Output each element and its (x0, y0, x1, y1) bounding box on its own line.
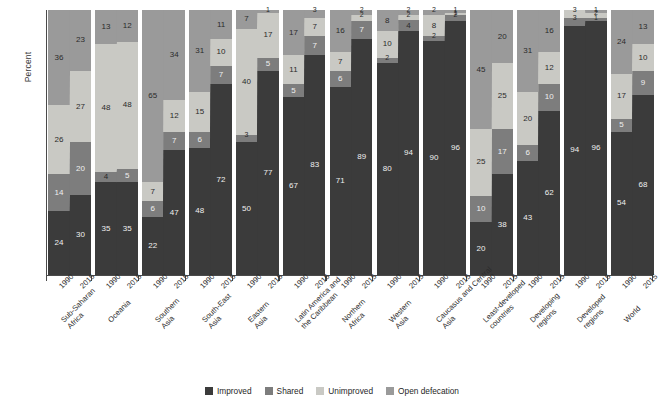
segment-value: 12 (538, 64, 559, 72)
bar-2015[interactable]: 16121062 (538, 10, 559, 275)
segment-value: 5 (611, 121, 632, 129)
bar-2015[interactable]: 20251738 (492, 10, 513, 275)
segment-unimproved: 20 (517, 92, 538, 145)
segment-unimproved: 17 (611, 74, 632, 119)
legend-item[interactable]: Open defecation (386, 386, 459, 396)
segment-value: 96 (445, 144, 466, 152)
segment-shared: 5 (611, 119, 632, 132)
segment-value: 4 (95, 173, 116, 181)
bar-group[interactable]: 4525102020251738 (470, 10, 513, 275)
segment-value: 20 (517, 115, 538, 123)
bar-2015[interactable]: 23272030 (70, 10, 91, 275)
bar-2015[interactable]: 117577 (257, 10, 278, 275)
legend-swatch (316, 387, 324, 395)
segment-value: 16 (538, 27, 559, 35)
bar-2015[interactable]: 11296 (445, 10, 466, 275)
segment-improved: 62 (538, 111, 559, 275)
segment-value: 6 (330, 75, 351, 83)
bar-1990[interactable]: 1711567 (283, 10, 304, 275)
segment-unimproved: 26 (48, 105, 69, 174)
segment-shared: 4 (398, 20, 419, 30)
segment-improved: 71 (330, 87, 351, 275)
segment-value: 67 (283, 182, 304, 190)
segment-unimproved: 11 (283, 55, 304, 84)
segment-value: 31 (189, 47, 210, 55)
bar-group[interactable]: 312064316121062 (517, 10, 560, 275)
segment-value: 26 (48, 136, 69, 144)
bar-1990[interactable]: 2417554 (611, 10, 632, 275)
bar-group[interactable]: 6576223412747 (142, 10, 185, 275)
bar-group[interactable]: 31156481110772 (189, 10, 232, 275)
segment-unimproved: 17 (257, 13, 278, 58)
legend-item[interactable]: Unimproved (316, 386, 373, 396)
segment-shared: 4 (95, 172, 116, 183)
segment-open_defecation: 34 (163, 10, 184, 100)
bar-2015[interactable]: 37783 (304, 10, 325, 275)
segment-open_defecation: 36 (48, 10, 69, 105)
bar-group[interactable]: 171156737783 (283, 10, 326, 275)
bar-1990[interactable]: 740350 (236, 10, 257, 275)
segment-value: 38 (492, 221, 513, 229)
bar-group[interactable]: 2829011296 (423, 10, 466, 275)
segment-value: 94 (564, 146, 585, 154)
legend-item[interactable]: Improved (205, 386, 252, 396)
bar-1990[interactable]: 3120643 (517, 10, 538, 275)
segment-value: 6 (142, 205, 163, 213)
bar-1990[interactable]: 167671 (330, 10, 351, 275)
bar-2015[interactable]: 1110772 (210, 10, 231, 275)
segment-value: 48 (117, 101, 138, 109)
bar-group[interactable]: 740350117577 (236, 10, 279, 275)
bar-group[interactable]: 3626142423272030 (48, 10, 91, 275)
segment-improved: 94 (398, 31, 419, 275)
bar-2015[interactable]: 22789 (351, 10, 372, 275)
bar-1990[interactable]: 3394 (564, 10, 585, 275)
legend-swatch (386, 387, 394, 395)
segment-shared: 10 (538, 84, 559, 111)
bar-1990[interactable]: 36261424 (48, 10, 69, 275)
segment-value: 96 (585, 144, 606, 152)
bar-group[interactable]: 13484351248535 (95, 10, 138, 275)
bar-group[interactable]: 16767122789 (330, 10, 373, 275)
segment-value: 11 (210, 21, 231, 29)
segment-value: 10 (377, 40, 398, 48)
bar-2015[interactable]: 3412747 (163, 10, 184, 275)
segment-value: 24 (611, 38, 632, 46)
segment-value: 80 (377, 165, 398, 173)
segment-open_defecation: 31 (517, 10, 538, 92)
bar-group[interactable]: 81028022494 (377, 10, 420, 275)
segment-value: 23 (70, 36, 91, 44)
segment-value: 94 (398, 149, 419, 157)
plot-area: 3626142423272030134843512485356576223412… (46, 10, 653, 276)
bar-group[interactable]: 24175541310968 (611, 10, 654, 275)
segment-open_defecation: 45 (470, 10, 491, 129)
segment-value: 16 (330, 27, 351, 35)
segment-value: 47 (163, 209, 184, 217)
segment-value: 3 (304, 6, 325, 14)
segment-open_defecation: 17 (283, 10, 304, 55)
legend-item[interactable]: Shared (265, 386, 304, 396)
segment-value: 43 (517, 214, 538, 222)
segment-improved: 43 (517, 161, 538, 275)
segment-unimproved: 27 (70, 71, 91, 143)
segment-value: 7 (236, 15, 257, 23)
bar-2015[interactable]: 12196 (585, 10, 606, 275)
bar-1990[interactable]: 657622 (142, 10, 163, 275)
legend-label: Open defecation (398, 386, 459, 396)
bar-1990[interactable]: 28290 (423, 10, 444, 275)
bar-2015[interactable]: 1310968 (632, 10, 653, 275)
segment-value: 72 (210, 176, 231, 184)
segment-shared: 10 (470, 196, 491, 223)
bar-1990[interactable]: 45251020 (470, 10, 491, 275)
segment-unimproved: 7 (304, 18, 325, 37)
segment-value: 8 (377, 17, 398, 25)
segment-value: 27 (70, 103, 91, 111)
segment-value: 45 (470, 66, 491, 74)
bar-2015[interactable]: 1248535 (117, 10, 138, 275)
bar-1990[interactable]: 3115648 (189, 10, 210, 275)
bar-1990[interactable]: 1348435 (95, 10, 116, 275)
segment-value: 11 (283, 66, 304, 74)
bar-group[interactable]: 339412196 (564, 10, 607, 275)
bar-1990[interactable]: 810280 (377, 10, 398, 275)
bar-2015[interactable]: 22494 (398, 10, 419, 275)
segment-value: 7 (351, 26, 372, 34)
